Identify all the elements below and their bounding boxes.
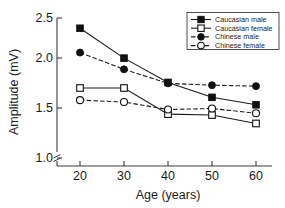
data-point xyxy=(165,80,172,87)
amplitude-vs-age-line-chart: 2.5 2.0 1.5 1.0 Amplitude (mV) 20 30 40 … xyxy=(0,0,285,208)
x-tick-label-30: 30 xyxy=(117,169,131,183)
x-tick-label-20: 20 xyxy=(73,169,87,183)
data-point xyxy=(209,82,216,89)
data-point xyxy=(165,106,172,113)
series-chinese-male xyxy=(77,49,260,90)
x-tick-label-60: 60 xyxy=(249,169,263,183)
data-point xyxy=(209,105,216,112)
data-point xyxy=(209,112,216,119)
open-square-icon xyxy=(198,25,204,31)
data-point xyxy=(253,102,260,109)
data-point xyxy=(77,49,84,56)
x-tick-label-40: 40 xyxy=(161,169,175,183)
legend-item-chinese-male[interactable]: Chinese male xyxy=(191,32,259,41)
data-point xyxy=(209,94,216,101)
legend-item-caucasian-female[interactable]: Caucasian female xyxy=(191,24,273,33)
data-point xyxy=(121,85,128,92)
data-point xyxy=(77,25,84,32)
data-point xyxy=(253,120,260,127)
y-tick-label-2-0: 2.0 xyxy=(36,51,53,65)
legend-label-caucasian-male: Caucasian male xyxy=(215,15,267,24)
x-axis-title: Age (years) xyxy=(136,188,201,202)
data-point xyxy=(253,110,260,117)
data-point xyxy=(77,85,84,92)
data-point xyxy=(121,66,128,73)
y-tick-label-1-0: 1.0 xyxy=(36,151,53,165)
data-point xyxy=(121,99,128,106)
chart-figure: 2.5 2.0 1.5 1.0 Amplitude (mV) 20 30 40 … xyxy=(0,0,285,208)
y-tick-label-1-5: 1.5 xyxy=(36,101,53,115)
data-point xyxy=(121,55,128,62)
legend-label-chinese-female: Chinese female xyxy=(215,41,265,50)
legend-label-chinese-male: Chinese male xyxy=(215,32,259,41)
data-point xyxy=(253,83,260,90)
data-point xyxy=(77,97,84,104)
legend-label-caucasian-female: Caucasian female xyxy=(215,24,273,33)
y-tick-label-2-5: 2.5 xyxy=(36,11,53,25)
open-circle-icon xyxy=(198,42,205,49)
filled-square-icon xyxy=(198,16,204,22)
legend: Caucasian male Caucasian female Chinese … xyxy=(187,13,279,51)
filled-circle-icon xyxy=(198,34,205,41)
y-axis-title: Amplitude (mV) xyxy=(7,49,21,135)
legend-item-caucasian-male[interactable]: Caucasian male xyxy=(191,15,267,24)
x-tick-label-50: 50 xyxy=(205,169,219,183)
x-axis: 20 30 40 50 60 Age (years) xyxy=(57,161,272,202)
legend-item-chinese-female[interactable]: Chinese female xyxy=(191,41,265,50)
y-axis: 2.5 2.0 1.5 1.0 Amplitude (mV) xyxy=(7,11,62,166)
